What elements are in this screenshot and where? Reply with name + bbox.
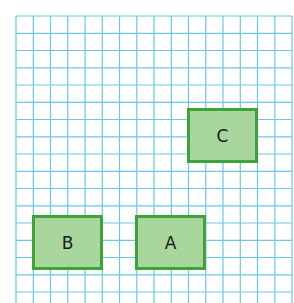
rectangle-a: A xyxy=(135,215,206,270)
label-b: B xyxy=(62,233,74,253)
rectangle-c: C xyxy=(187,108,258,163)
rectangle-b: B xyxy=(32,215,103,270)
label-c: C xyxy=(217,126,229,146)
label-a: A xyxy=(165,233,177,253)
